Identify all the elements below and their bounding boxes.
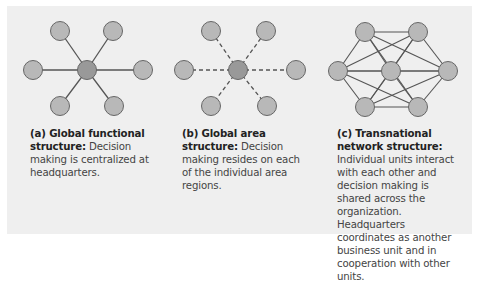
subsidiary-node (51, 97, 70, 116)
region-node (258, 97, 277, 116)
region-node (257, 22, 276, 41)
region-node (287, 61, 306, 80)
diagram-a-nodes (24, 22, 153, 116)
caption-body: Individual units interact with each othe… (337, 154, 454, 282)
caption-title: (c) Transnational network structure: (337, 128, 442, 152)
unit-node (439, 62, 458, 81)
headquarters-node (229, 61, 248, 80)
subsidiary-node (105, 97, 124, 116)
unit-node (356, 98, 375, 117)
subsidiary-node (51, 22, 70, 41)
region-node (202, 97, 221, 116)
unit-node (409, 23, 428, 42)
region-node (202, 22, 221, 41)
unit-node (409, 98, 428, 117)
headquarters-node (382, 62, 401, 81)
caption-global-functional: (a) Global functional structure: Decisio… (30, 127, 160, 179)
region-node (175, 61, 194, 80)
subsidiary-node (104, 22, 123, 41)
diagram-b-nodes (175, 22, 306, 116)
headquarters-node (78, 61, 97, 80)
caption-global-area: (b) Global area structure: Decision maki… (182, 127, 312, 192)
diagram-c-nodes (329, 23, 458, 117)
caption-transnational-network: (c) Transnational network structure: Ind… (337, 127, 465, 283)
subsidiary-node (24, 61, 43, 80)
unit-node (356, 23, 375, 42)
unit-node (329, 62, 348, 81)
subsidiary-node (134, 61, 153, 80)
